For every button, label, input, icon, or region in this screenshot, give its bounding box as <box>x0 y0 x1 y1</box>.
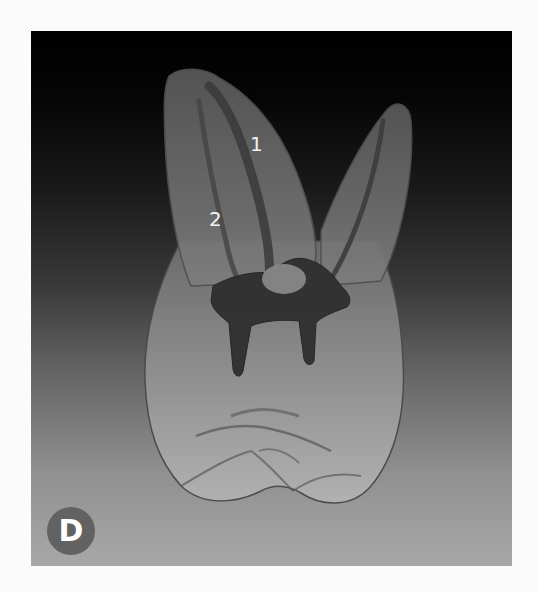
annotation-label-2: 2 <box>209 209 222 229</box>
annotation-label-1: 1 <box>250 134 263 154</box>
figure-panel: 1 2 D <box>31 31 512 566</box>
tooth-root-left <box>164 69 316 286</box>
panel-letter-badge: D <box>47 507 95 555</box>
tooth-render <box>31 31 512 566</box>
panel-letter: D <box>59 516 84 546</box>
